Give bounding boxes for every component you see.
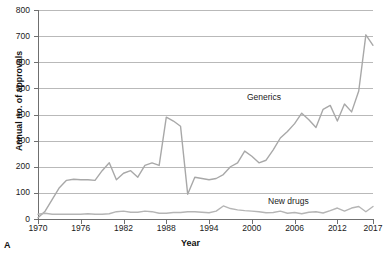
generics-line	[38, 35, 373, 218]
new-drugs-line	[38, 206, 373, 214]
series-label-generics: Generics	[247, 92, 281, 102]
series-label-new-drugs: New drugs	[268, 196, 309, 206]
panel-label: A	[4, 240, 11, 250]
x-axis-title: Year	[0, 238, 381, 248]
